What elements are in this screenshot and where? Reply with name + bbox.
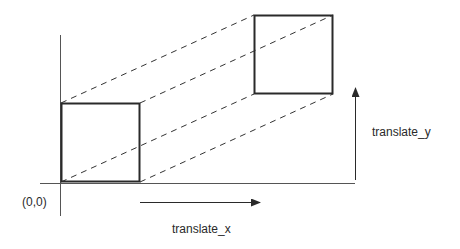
- translate-y-label: translate_y: [372, 125, 431, 139]
- original-square: [62, 104, 140, 182]
- origin-label: (0,0): [22, 195, 47, 209]
- translate-x-label: translate_x: [172, 222, 231, 236]
- translated-square: [255, 16, 333, 94]
- dashed-connectors: [61, 15, 333, 182]
